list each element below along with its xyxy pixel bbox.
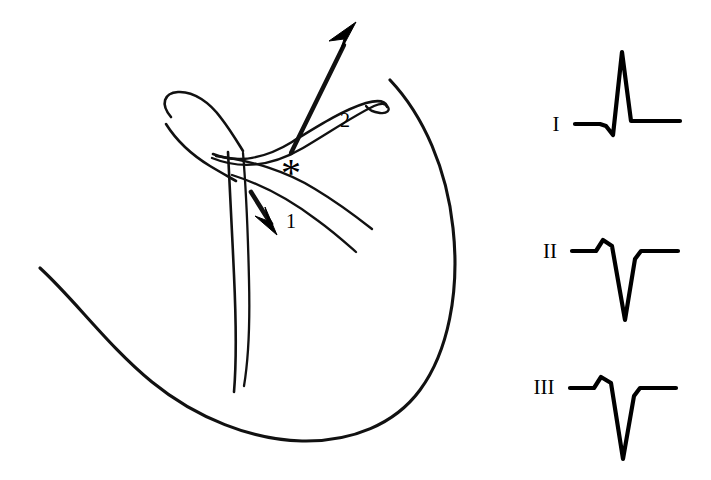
downward-arrow-1 <box>251 192 277 235</box>
upward-arrow-2-head <box>329 22 356 52</box>
ecg-lead-II: II <box>543 239 678 320</box>
atrial-appendage-lower-edge <box>166 124 236 181</box>
septal-wall-left-line <box>228 152 236 392</box>
ecg-lead-I-trace <box>575 52 680 135</box>
figure-canvas: * 1 2 I II <box>0 0 711 480</box>
atrial-appendage-outline <box>165 92 243 151</box>
site-asterisk-icon: * <box>281 150 301 195</box>
ecg-lead-II-label: II <box>543 239 557 263</box>
ecg-lead-III-trace <box>570 377 676 459</box>
ecg-lead-I: I <box>553 52 681 136</box>
ecg-lead-II-trace <box>572 240 678 320</box>
ecg-panel: I II III <box>534 52 680 459</box>
upward-arrow-2 <box>291 22 356 153</box>
septal-wall-right-line <box>243 153 249 386</box>
upward-arrow-2-shaft <box>291 45 344 153</box>
direction-label-1: 1 <box>286 210 296 232</box>
anatomy-panel: * 1 2 <box>40 22 455 441</box>
ecg-lead-I-label: I <box>553 112 560 136</box>
direction-label-2: 2 <box>340 109 350 131</box>
downward-arrow-1-head <box>255 207 277 235</box>
figure-root: * 1 2 I II <box>0 0 711 480</box>
ecg-lead-III: III <box>534 375 676 459</box>
ecg-lead-III-label: III <box>534 375 555 399</box>
